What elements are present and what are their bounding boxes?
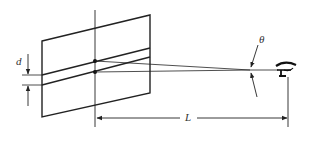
eye-icon [276, 63, 296, 76]
theta-arrow-lower [251, 73, 257, 97]
d-label: d [16, 56, 22, 67]
theta-arrow-upper [251, 45, 258, 67]
lower-ray [95, 70, 250, 72]
screen-parallelogram [42, 15, 150, 117]
L-label: L [185, 112, 191, 123]
theta-label: θ [259, 34, 264, 45]
diagram-canvas [0, 0, 313, 142]
